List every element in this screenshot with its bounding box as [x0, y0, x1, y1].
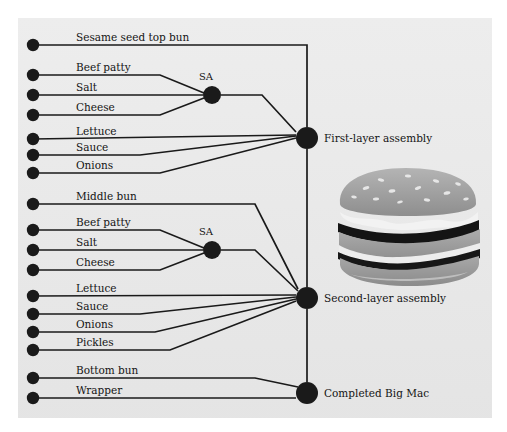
- edge-sa2-to-second-layer: [221, 250, 298, 291]
- component-dot-c17[interactable]: [27, 392, 39, 404]
- component-label-c7: Onions: [76, 159, 113, 171]
- component-dot-c14[interactable]: [27, 326, 39, 338]
- component-label-c4: Cheese: [76, 101, 115, 113]
- edge-cheese-1-to-sa1: [33, 98, 204, 115]
- assembly-node-layer: [203, 86, 318, 404]
- figure-canvas: Sesame seed top bunBeef pattySaltCheeseL…: [0, 0, 507, 432]
- component-label-c9: Beef patty: [76, 216, 131, 228]
- edge-layer: [33, 45, 307, 398]
- component-dot-c15[interactable]: [27, 344, 39, 356]
- component-dot-c13[interactable]: [27, 308, 39, 320]
- assembly-label-second: Second-layer assembly: [324, 292, 446, 304]
- edge-sauce-2-to-second-layer: [33, 297, 296, 314]
- component-label-c3: Salt: [76, 81, 98, 93]
- edge-beef-patty-1-to-sa1: [33, 75, 204, 93]
- precedence-diagram: Sesame seed top bunBeef pattySaltCheeseL…: [0, 0, 507, 432]
- component-dot-c6[interactable]: [27, 149, 39, 161]
- edge-middle-bun-to-second-layer: [33, 204, 298, 289]
- edge-cheese-2-to-sa2: [33, 253, 204, 270]
- component-label-c2: Beef patty: [76, 61, 131, 73]
- component-dot-c16[interactable]: [27, 372, 39, 384]
- component-label-c14: Onions: [76, 318, 113, 330]
- assembly-label-sa2: SA: [199, 226, 214, 237]
- component-dot-c3[interactable]: [27, 89, 39, 101]
- component-label-c17: Wrapper: [76, 384, 123, 396]
- assembly-node-done[interactable]: [296, 382, 318, 404]
- assembly-node-sa2[interactable]: [203, 241, 221, 259]
- component-dot-c5[interactable]: [27, 133, 39, 145]
- component-label-c11: Cheese: [76, 256, 115, 268]
- component-dot-c8[interactable]: [27, 198, 39, 210]
- component-label-c6: Sauce: [76, 141, 108, 153]
- component-label-c5: Lettuce: [76, 125, 116, 137]
- assembly-node-sa1[interactable]: [203, 86, 221, 104]
- component-dot-c2[interactable]: [27, 69, 39, 81]
- assembly-node-second[interactable]: [296, 287, 318, 309]
- component-dot-c9[interactable]: [27, 224, 39, 236]
- assembly-label-sa1: SA: [199, 71, 214, 82]
- assembly-label-done: Completed Big Mac: [324, 387, 429, 399]
- component-dot-c4[interactable]: [27, 109, 39, 121]
- component-label-c15: Pickles: [76, 336, 114, 348]
- edge-lettuce-1-to-first-layer: [33, 135, 296, 139]
- component-label-c16: Bottom bun: [76, 364, 139, 376]
- component-label-c1: Sesame seed top bun: [76, 31, 190, 43]
- component-dot-c7[interactable]: [27, 167, 39, 179]
- edge-lettuce-2-to-second-layer: [33, 295, 296, 296]
- component-label-c10: Salt: [76, 236, 98, 248]
- edge-sa1-to-first-layer: [221, 95, 296, 132]
- edge-beef-patty-2-to-sa2: [33, 230, 204, 248]
- assembly-label-first: First-layer assembly: [324, 132, 432, 144]
- component-dot-layer: [27, 39, 39, 404]
- component-dot-c12[interactable]: [27, 290, 39, 302]
- component-dot-c1[interactable]: [27, 39, 39, 51]
- component-label-c8: Middle bun: [76, 190, 137, 202]
- component-dot-c10[interactable]: [27, 244, 39, 256]
- assembly-node-first[interactable]: [296, 127, 318, 149]
- component-dot-c11[interactable]: [27, 264, 39, 276]
- edge-bottom-bun-to-completed: [33, 378, 298, 387]
- component-label-c13: Sauce: [76, 300, 108, 312]
- component-label-c12: Lettuce: [76, 282, 116, 294]
